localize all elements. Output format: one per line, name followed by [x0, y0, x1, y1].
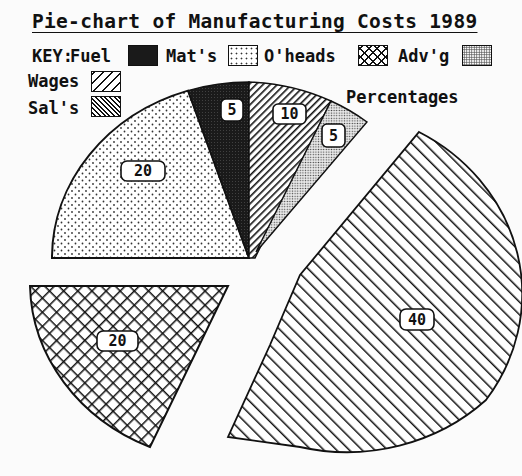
slice-oheads	[30, 286, 228, 447]
svg-text:5: 5	[227, 101, 236, 119]
svg-text:40: 40	[408, 311, 426, 329]
pie-chart: 20 5 10 5 40 20	[0, 0, 522, 476]
svg-text:10: 10	[280, 105, 298, 123]
svg-text:5: 5	[329, 127, 338, 145]
label-sals: 10	[273, 104, 306, 124]
label-fuel: 5	[221, 99, 243, 121]
label-oheads: 20	[97, 331, 138, 351]
svg-text:20: 20	[134, 162, 152, 180]
label-mats: 20	[121, 161, 165, 181]
label-advg: 5	[322, 124, 345, 147]
label-wages: 40	[400, 309, 434, 330]
svg-text:20: 20	[108, 332, 126, 350]
